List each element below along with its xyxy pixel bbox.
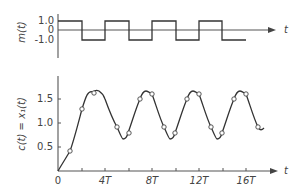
bottom-x4: 4T: [99, 175, 112, 186]
top-tick-lo: -1.0: [34, 34, 54, 45]
bottom-x16: 16T: [237, 175, 257, 186]
bottom-tick-10: 1.0: [37, 117, 53, 128]
response-curve: [58, 90, 264, 171]
bottom-x-label: t: [284, 165, 289, 176]
bottom-tick-05: 0.5: [37, 141, 53, 152]
bottom-x-arrow-icon: [270, 168, 278, 174]
sample-markers: [68, 91, 260, 153]
bottom-tick-15: 1.5: [37, 93, 53, 104]
bottom-x0: 0: [55, 175, 61, 186]
top-x-label: t: [284, 24, 289, 35]
bottom-plot: t 1.5 1.0 0.5 0 4T 8T 12T 16T c(t) = x₁(…: [16, 76, 289, 186]
bottom-x12: 12T: [190, 175, 210, 186]
chart-figure: t 1.0 0 -1.0 m(t) t 1.5 1.0 0.5 0: [0, 0, 303, 192]
bottom-x8: 8T: [146, 175, 159, 186]
top-plot: t 1.0 0 -1.0 m(t): [16, 14, 289, 58]
top-x-arrow-icon: [268, 27, 276, 33]
bottom-y-label: c(t) = x₁(t): [16, 97, 27, 151]
top-y-label: m(t): [16, 21, 27, 42]
